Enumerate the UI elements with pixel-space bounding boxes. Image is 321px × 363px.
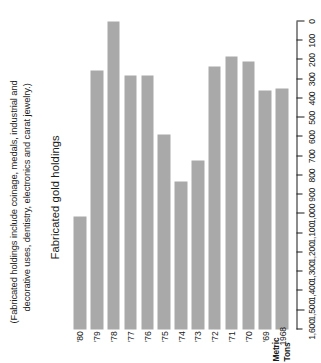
category-label-77: '77 bbox=[125, 331, 135, 345]
bar-77[interactable] bbox=[124, 75, 137, 329]
value-axis-tick bbox=[296, 78, 302, 79]
bar-79[interactable] bbox=[90, 70, 103, 329]
value-axis-tick bbox=[296, 193, 302, 194]
bar-row bbox=[258, 21, 271, 329]
value-axis-label: 1,100 bbox=[306, 222, 316, 243]
chart-note-line-1: (Fabricated holdings include coinage, me… bbox=[6, 5, 19, 323]
value-axis-tick bbox=[296, 97, 302, 98]
bar-row bbox=[124, 21, 137, 329]
value-axis-label: 1,000 bbox=[306, 203, 316, 224]
bar-row bbox=[191, 21, 204, 329]
category-label-69: '69 bbox=[260, 331, 270, 345]
value-axis: 1,6001,5001,4001,3001,2001,1001,00090080… bbox=[296, 21, 306, 329]
value-axis-label: 1,600 bbox=[306, 319, 316, 340]
bar-row bbox=[208, 21, 221, 329]
value-axis-tick bbox=[296, 270, 302, 271]
category-label-1968: 1968 bbox=[277, 331, 287, 345]
category-label-80: '80 bbox=[74, 331, 84, 345]
value-axis-label: 1,500 bbox=[306, 299, 316, 320]
bar-78[interactable] bbox=[107, 21, 120, 329]
value-axis-tick bbox=[296, 136, 302, 137]
category-label-72: '72 bbox=[209, 331, 219, 345]
category-label-76: '76 bbox=[142, 331, 152, 345]
value-axis-tick bbox=[296, 309, 304, 310]
category-axis: 1968'69'70'71'72'73'74'75'76'77'78'79'80 bbox=[71, 331, 290, 345]
value-axis-tick bbox=[296, 213, 304, 214]
value-axis-tick bbox=[296, 174, 302, 175]
value-axis-label: 600 bbox=[306, 130, 316, 144]
value-axis-label: 0 bbox=[306, 19, 316, 24]
plot-area bbox=[71, 21, 290, 329]
bar-row bbox=[90, 21, 103, 329]
value-axis-label: 200 bbox=[306, 53, 316, 67]
value-axis-label: 1,400 bbox=[306, 280, 316, 301]
bar-73[interactable] bbox=[191, 160, 204, 329]
value-axis-tick bbox=[296, 290, 302, 291]
value-axis-label: 400 bbox=[306, 91, 316, 105]
chart-note: (Fabricated holdings include coinage, me… bbox=[6, 5, 32, 323]
bar-75[interactable] bbox=[157, 134, 170, 329]
category-label-70: '70 bbox=[243, 331, 253, 345]
value-axis-label: 1,300 bbox=[306, 261, 316, 282]
category-label-79: '79 bbox=[91, 331, 101, 345]
value-axis-tick bbox=[296, 251, 302, 252]
value-axis-tick bbox=[296, 328, 302, 329]
value-axis-tick bbox=[296, 232, 302, 233]
bar-row bbox=[73, 21, 86, 329]
bar-row bbox=[141, 21, 154, 329]
bar-1968[interactable] bbox=[275, 88, 288, 329]
value-axis-tick bbox=[296, 116, 304, 117]
value-axis-label: 500 bbox=[306, 110, 316, 124]
bar-row bbox=[107, 21, 120, 329]
value-axis-label: 100 bbox=[306, 33, 316, 47]
category-label-78: '78 bbox=[108, 331, 118, 345]
chart-figure: (Fabricated holdings include coinage, me… bbox=[0, 0, 321, 363]
bar-74[interactable] bbox=[174, 181, 187, 329]
category-label-74: '74 bbox=[176, 331, 186, 345]
value-axis-tick bbox=[296, 155, 302, 156]
bar-row bbox=[157, 21, 170, 329]
bar-row bbox=[174, 21, 187, 329]
chart-title: Fabricated gold holdings bbox=[48, 135, 60, 259]
value-axis-label: 800 bbox=[306, 168, 316, 182]
category-label-75: '75 bbox=[159, 331, 169, 345]
bar-76[interactable] bbox=[141, 75, 154, 329]
bar-row bbox=[242, 21, 255, 329]
chart-canvas: (Fabricated holdings include coinage, me… bbox=[0, 0, 321, 363]
value-axis-label: 700 bbox=[306, 149, 316, 163]
bar-72[interactable] bbox=[208, 66, 221, 329]
value-axis-label: 900 bbox=[306, 187, 316, 201]
bar-70[interactable] bbox=[242, 61, 255, 329]
bar-69[interactable] bbox=[258, 90, 271, 329]
chart-note-line-2: decorative uses, dentistry, electronics … bbox=[19, 5, 32, 323]
bar-80[interactable] bbox=[73, 216, 86, 329]
bar-row bbox=[275, 21, 288, 329]
value-axis-tick bbox=[296, 39, 302, 40]
bar-71[interactable] bbox=[225, 56, 238, 329]
category-label-73: '73 bbox=[192, 331, 202, 345]
value-axis-label: 300 bbox=[306, 72, 316, 86]
value-axis-label: 1,200 bbox=[306, 242, 316, 263]
category-label-71: '71 bbox=[226, 331, 236, 345]
value-axis-tick bbox=[296, 20, 304, 21]
bar-row bbox=[225, 21, 238, 329]
value-axis-tick bbox=[296, 59, 302, 60]
